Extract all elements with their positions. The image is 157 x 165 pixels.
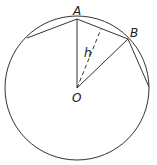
label-A: A <box>72 4 81 18</box>
label-h: h <box>84 46 92 60</box>
circle-diagram: A B O h <box>0 0 157 165</box>
label-O: O <box>72 91 81 105</box>
label-B: B <box>130 26 138 40</box>
